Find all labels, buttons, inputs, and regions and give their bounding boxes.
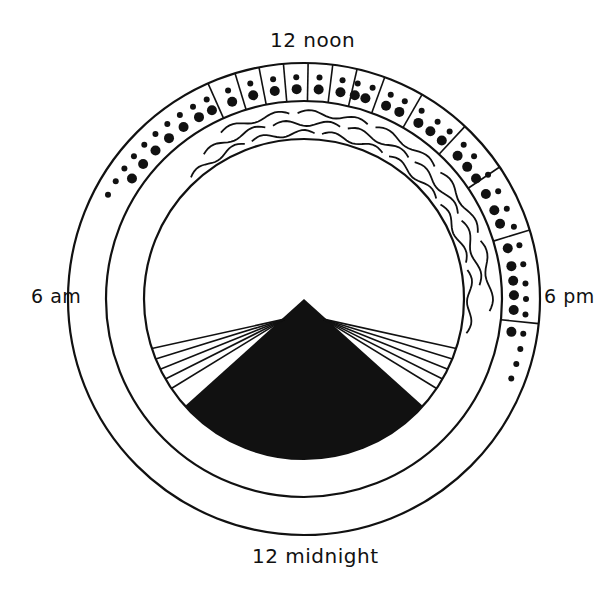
small-dot <box>520 261 526 267</box>
small-dot <box>520 331 526 337</box>
segment-divider <box>307 63 308 101</box>
segment-divider <box>283 64 286 102</box>
large-dot <box>509 290 519 300</box>
small-dot <box>516 242 522 248</box>
small-dot <box>105 192 111 198</box>
large-dot <box>453 151 463 161</box>
small-dot <box>522 281 528 287</box>
label-6-am: 6 am <box>31 285 81 307</box>
large-dot <box>503 243 513 253</box>
label-6-pm: 6 pm <box>544 285 595 307</box>
small-dot <box>447 128 453 134</box>
small-dot <box>121 166 127 172</box>
small-dot <box>316 75 322 81</box>
large-dot <box>509 305 519 315</box>
small-dot <box>523 296 529 302</box>
segment-divider <box>328 65 333 103</box>
wave-line <box>322 132 383 152</box>
small-dot <box>517 346 523 352</box>
small-dot <box>495 188 501 194</box>
small-dot <box>190 104 196 110</box>
large-dot <box>138 159 148 169</box>
large-dot <box>179 122 189 132</box>
large-dot <box>248 90 258 100</box>
small-dot <box>355 81 361 87</box>
wave-line <box>481 241 493 311</box>
large-dot <box>292 84 302 94</box>
large-dot <box>495 219 505 229</box>
large-dot <box>462 162 472 172</box>
small-dot <box>508 376 514 382</box>
small-dot <box>177 112 183 118</box>
night-cone <box>152 299 456 459</box>
segment-divider <box>235 73 246 109</box>
small-dot <box>419 108 425 114</box>
small-dot <box>270 76 276 82</box>
small-dot <box>471 153 477 159</box>
large-dot <box>194 112 204 122</box>
small-dot <box>511 224 517 230</box>
large-dot <box>350 90 360 100</box>
large-dot <box>506 327 516 337</box>
large-dot <box>381 101 391 111</box>
large-dot <box>481 189 491 199</box>
large-dot <box>425 126 435 136</box>
small-dot <box>247 81 253 87</box>
label-12-midnight: 12 midnight <box>252 544 379 568</box>
small-dot <box>131 153 137 159</box>
wave-line <box>441 205 467 263</box>
segment-divider <box>259 67 266 104</box>
small-dot <box>141 142 147 148</box>
large-dot <box>489 205 499 215</box>
small-dot <box>388 92 394 98</box>
large-dot <box>270 86 280 96</box>
small-dot <box>204 96 210 102</box>
large-dot <box>471 174 481 184</box>
large-dot <box>314 85 324 95</box>
wave-line <box>204 127 265 155</box>
small-dot <box>164 121 170 127</box>
large-dot <box>508 276 518 286</box>
small-dot <box>152 131 158 137</box>
wave-line <box>466 270 472 333</box>
small-dot <box>522 311 528 317</box>
large-dot <box>151 146 161 156</box>
segment-divider <box>349 69 358 106</box>
large-dot <box>360 93 370 103</box>
large-dot <box>127 174 137 184</box>
wave-line <box>273 121 340 127</box>
wave-line <box>348 128 409 157</box>
large-dot <box>227 97 237 107</box>
small-dot <box>485 172 491 178</box>
small-dot <box>340 77 346 83</box>
segment-divider <box>493 230 529 241</box>
small-dot <box>461 142 467 148</box>
wave-line <box>415 162 458 213</box>
small-dot <box>370 85 376 91</box>
small-dot <box>435 119 441 125</box>
small-dot <box>293 74 299 80</box>
daily-cycle-diagram <box>0 0 616 596</box>
large-dot <box>413 118 423 128</box>
large-dot <box>335 87 345 97</box>
wave-line <box>191 144 245 178</box>
wave-line <box>389 156 436 198</box>
segment-divider <box>501 320 539 324</box>
large-dot <box>506 261 516 271</box>
large-dot <box>394 107 404 117</box>
small-dot <box>504 206 510 212</box>
label-12-noon: 12 noon <box>270 28 355 52</box>
large-dot <box>437 136 447 146</box>
large-dot <box>207 105 217 115</box>
large-dot <box>164 133 174 143</box>
night-sector <box>185 299 423 459</box>
small-dot <box>225 87 231 93</box>
small-dot <box>113 178 119 184</box>
small-dot <box>513 361 519 367</box>
small-dot <box>402 98 408 104</box>
